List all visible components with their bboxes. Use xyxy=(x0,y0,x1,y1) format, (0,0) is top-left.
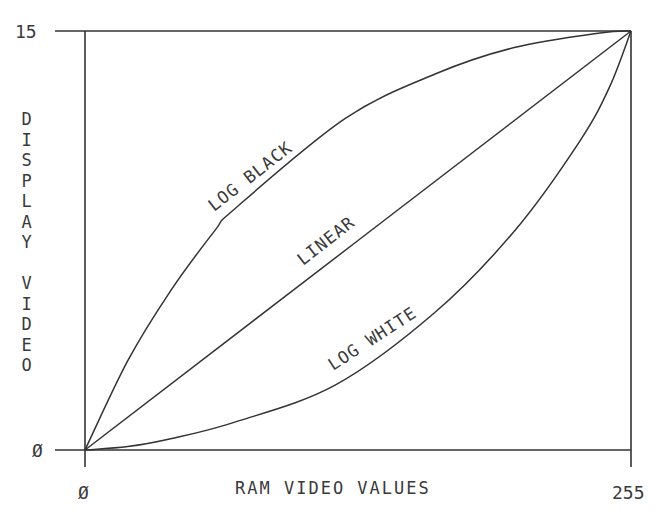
y-axis-label-letter: O xyxy=(21,355,32,375)
y-axis-label-letter: L xyxy=(21,191,32,211)
x-tick-255: 255 xyxy=(612,482,645,503)
y-axis-label-letter: Y xyxy=(21,232,32,252)
log-white-label: LOG WHITE xyxy=(324,303,420,375)
linear-label: LINEAR xyxy=(293,212,358,269)
y-axis-label-letter: S xyxy=(21,150,32,170)
y-axis-label-letter: P xyxy=(21,171,32,191)
y-axis-label-letter: I xyxy=(21,294,32,314)
x-axis-label: RAM VIDEO VALUES xyxy=(235,478,431,498)
linear-curve xyxy=(85,31,631,450)
log-black-label: LOG BLACK xyxy=(204,137,296,215)
y-axis-label-letter: D xyxy=(21,314,32,334)
y-axis-label-letter: A xyxy=(21,212,32,232)
y-axis-label: DISPLAY VIDEO xyxy=(21,109,32,375)
y-tick-15: 15 xyxy=(15,21,37,42)
y-tick-0: Ø xyxy=(32,440,43,461)
y-axis-label-letter: V xyxy=(21,273,32,293)
y-axis-label-letter: E xyxy=(21,335,32,355)
chart: 15 Ø Ø 255 RAM VIDEO VALUES DISPLAY VIDE… xyxy=(0,0,663,521)
y-axis-label-letter: I xyxy=(21,130,32,150)
x-tick-0: Ø xyxy=(78,482,89,503)
y-axis-label-letter: D xyxy=(21,109,32,129)
